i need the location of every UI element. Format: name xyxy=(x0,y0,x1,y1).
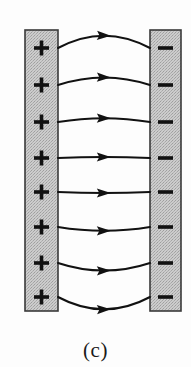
minus-charge-icon xyxy=(158,83,173,87)
minus-charge-icon xyxy=(158,190,173,194)
field-diagram xyxy=(0,0,191,367)
minus-charge-icon xyxy=(158,156,173,160)
negative-plate xyxy=(150,30,181,311)
field-lines-group xyxy=(58,31,150,315)
figure-caption: (c) xyxy=(0,338,191,363)
minus-charge-icon xyxy=(158,120,173,124)
minus-charge-icon xyxy=(158,261,173,265)
minus-charge-icon xyxy=(158,295,173,299)
minus-charge-icon xyxy=(158,225,173,229)
capacitor-field-figure: (c) xyxy=(0,0,191,367)
minus-charge-icon xyxy=(158,46,173,50)
